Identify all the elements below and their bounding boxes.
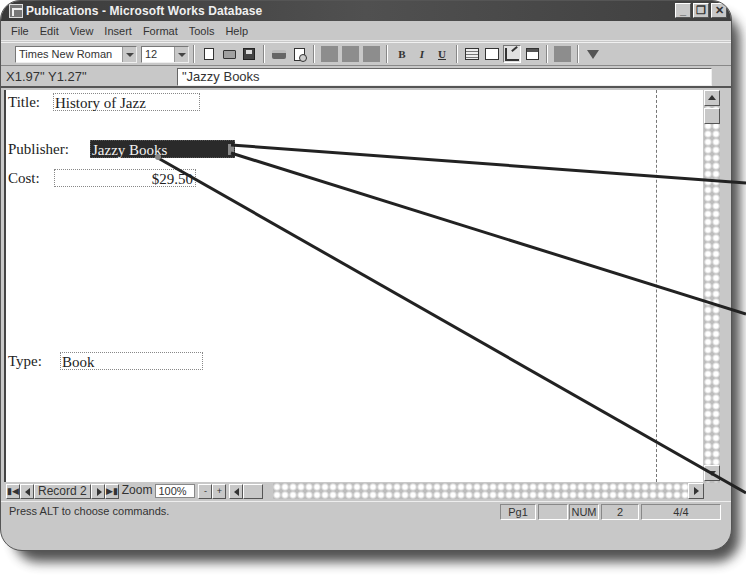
font-name-value: Times New Roman [19,48,112,60]
position-coordinates: X1.97" Y1.27" [6,68,116,86]
toolbar-separator [456,45,458,63]
printer-icon [272,50,286,59]
chevron-down-icon[interactable] [122,47,136,62]
toolbar-separator [193,45,195,63]
menu-view[interactable]: View [70,25,94,37]
disabled-button-icon [554,46,571,62]
vertical-scrollbar[interactable] [704,90,720,496]
menu-file[interactable]: File [11,25,29,37]
list-view-button[interactable] [463,45,481,63]
toolbar-separator [313,45,315,63]
italic-button[interactable]: I [413,45,431,63]
form-view-icon [485,48,499,60]
status-num-lock: NUM [569,504,599,520]
font-size-value: 12 [145,48,157,60]
status-message: Press ALT to choose commands. [9,505,169,517]
status-bar: Press ALT to choose commands. Pg1 NUM 2 … [1,501,731,521]
entry-field[interactable]: "Jazzy Books [177,68,712,86]
field-label-publisher: Publisher: [8,140,69,158]
window-controls: _ ❐ ✕ [675,3,727,18]
new-button[interactable] [200,45,218,63]
print-preview-button[interactable] [290,45,308,63]
form-design-icon [505,48,519,61]
chevron-down-icon[interactable] [174,47,188,62]
list-view-icon [465,48,479,60]
field-value-publisher-text: Jazzy Books [92,142,167,158]
zoom-out-button[interactable]: - [198,484,212,499]
scroll-up-button[interactable] [704,90,720,106]
open-button[interactable] [220,45,238,63]
status-page: Pg1 [500,504,536,520]
toolbar: Times New Roman 12 B I U [1,42,731,66]
zoom-label: Zoom [119,484,156,499]
underline-button[interactable]: U [433,45,451,63]
previous-record-button[interactable] [20,484,34,499]
restore-button[interactable]: ❐ [693,3,709,18]
font-name-select[interactable]: Times New Roman [15,46,137,63]
print-button[interactable] [270,45,288,63]
print-preview-icon [294,48,305,61]
form-design-button[interactable] [503,45,521,63]
field-label-title: Title: [8,93,40,111]
toolbar-separator [577,45,579,63]
save-disk-icon [243,48,255,60]
field-label-cost: Cost: [8,169,40,187]
horizontal-scrollbar[interactable] [273,483,704,499]
field-value-publisher[interactable]: Jazzy Books [90,140,235,158]
filter-funnel-icon [587,50,599,59]
open-folder-icon [223,50,236,59]
menu-format[interactable]: Format [143,25,178,37]
menu-bar: File Edit View Insert Format Tools Help [1,21,731,41]
report-view-button[interactable] [523,45,541,63]
last-record-button[interactable]: ▶▮ [105,484,119,499]
new-document-icon [204,48,214,60]
menu-tools[interactable]: Tools [189,25,215,37]
scroll-down-button[interactable] [704,465,720,481]
field-value-type[interactable]: Book [60,352,203,370]
horizontal-scroll-thumb[interactable] [243,484,263,499]
window-title: Publications - Microsoft Works Database [26,4,262,18]
next-record-button[interactable] [91,484,105,499]
status-record-number: 2 [601,504,639,520]
vertical-scroll-thumb[interactable] [704,108,720,124]
toolbar-separator [546,45,548,63]
record-indicator: Record 2 [34,484,91,499]
field-value-cost[interactable]: $29.50 [54,169,196,187]
disabled-button-icon [363,46,380,62]
field-value-title[interactable]: History of Jazz [53,93,200,111]
report-view-icon [526,48,539,60]
title-bar[interactable]: Publications - Microsoft Works Database … [1,1,731,21]
scroll-left-button[interactable] [229,484,243,499]
disabled-button-icon [321,46,338,62]
font-size-select[interactable]: 12 [141,46,189,63]
scroll-right-button[interactable] [688,483,704,499]
save-button[interactable] [240,45,258,63]
filter-button[interactable] [584,45,602,63]
menu-help[interactable]: Help [225,25,248,37]
zoom-in-button[interactable]: + [212,484,226,499]
menu-edit[interactable]: Edit [40,25,59,37]
works-app-icon[interactable] [9,4,23,18]
bold-button[interactable]: B [393,45,411,63]
menu-insert[interactable]: Insert [104,25,132,37]
first-record-button[interactable]: ▮◀ [6,484,20,499]
status-blank [538,504,568,520]
form-design-area[interactable]: Title: History of Jazz Publisher: Jazzy … [4,90,703,482]
entry-bar: X1.97" Y1.27" "Jazzy Books [1,67,731,88]
close-button[interactable]: ✕ [711,3,727,18]
toolbar-separator [263,45,265,63]
minimize-button[interactable]: _ [675,3,691,18]
disabled-button-icon [342,46,359,62]
form-view-button[interactable] [483,45,501,63]
toolbar-separator [386,45,388,63]
app-window: Publications - Microsoft Works Database … [0,0,732,551]
zoom-level-field[interactable]: 100% [155,484,195,498]
page-margin-guide [656,90,657,482]
status-record-count: 4/4 [641,504,721,520]
field-label-type: Type: [8,352,42,370]
resize-handle[interactable] [228,144,234,155]
